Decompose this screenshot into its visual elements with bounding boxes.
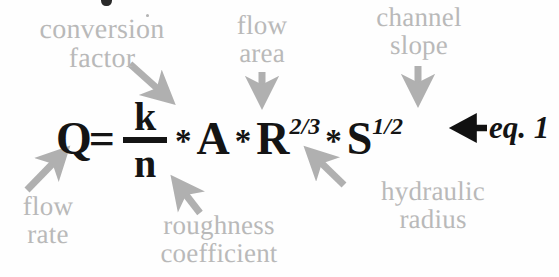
equation-symbol-a: A [197,116,230,162]
equation-symbol-s: S [347,116,373,162]
clipped-text-fragment [101,0,112,6]
equation-reference-label: eq. 1 [489,110,549,146]
equation-operator-multiply-3: * [325,125,342,158]
equation-operator-multiply-2: * [235,125,252,158]
equation-exponent-one-half: 1/2 [372,114,403,138]
equation-symbol-r: R [256,116,289,162]
label-hydraulic-radius: hydraulic radius [338,178,528,233]
equation-equals-sign: = [89,116,115,162]
equation-fraction-k-over-n: k n [123,97,167,183]
equation-diagram: conversion factor flow area channel slop… [0,0,559,277]
label-conversion-factor: conversion factor [12,16,192,73]
equation-symbol-n: n [128,144,162,183]
equation-exponent-two-thirds: 2/3 [289,114,320,138]
arrow-roughness-to-n [176,182,200,213]
label-flow-rate: flow rate [2,193,94,248]
equation-operator-multiply-1: * [175,125,192,158]
label-roughness-coefficient: roughness coefficient [117,212,321,267]
equation-symbol-k: k [128,97,162,136]
manning-equation: Q = k n * A * R 2/3 * S 1/2 [56,96,403,182]
equation-symbol-q: Q [56,116,91,162]
label-flow-area: flow area [212,12,312,67]
label-channel-slope: channel slope [353,4,485,59]
